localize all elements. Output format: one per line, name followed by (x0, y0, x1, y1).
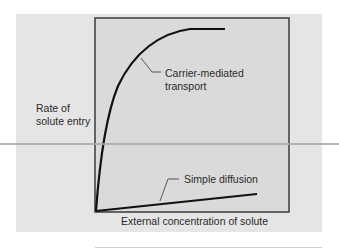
scan-line (0, 143, 339, 145)
y-axis-label-line-2: solute entry (36, 115, 90, 128)
x-axis-label: External concentration of solute (121, 215, 268, 227)
carrier-label-line-1: Carrier-mediated (165, 67, 244, 80)
bottom-rule (95, 247, 322, 248)
simple-diffusion-label: Simple diffusion (184, 173, 258, 186)
carrier-mediated-label: Carrier-mediated transport (165, 67, 244, 93)
y-axis-label: Rate of solute entry (36, 102, 90, 128)
carrier-label-line-2: transport (165, 80, 244, 93)
y-axis-label-line-1: Rate of (36, 102, 90, 115)
